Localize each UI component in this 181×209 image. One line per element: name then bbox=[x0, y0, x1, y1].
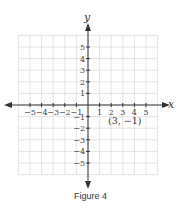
x-tick-label: −5 bbox=[24, 108, 36, 117]
y-tick-label: 2 bbox=[80, 78, 85, 87]
y-tick-label: 1 bbox=[80, 89, 85, 98]
x-tick-label: −3 bbox=[47, 108, 59, 117]
x-tick-label: 5 bbox=[143, 108, 148, 117]
y-tick-label: −5 bbox=[73, 159, 85, 168]
y-tick-label: −3 bbox=[73, 136, 85, 145]
y-tick-label: −1 bbox=[73, 113, 85, 122]
y-tick-label: 5 bbox=[80, 43, 85, 52]
x-tick-label: −2 bbox=[59, 108, 71, 117]
y-axis-down-arrow-icon bbox=[85, 181, 91, 189]
y-tick-label: 3 bbox=[80, 66, 85, 75]
axes bbox=[4, 23, 170, 189]
point-label: (3, −1) bbox=[108, 115, 142, 126]
figure-caption: Figure 4 bbox=[0, 191, 181, 201]
y-axis-label: y bbox=[83, 11, 91, 24]
y-axis-up-arrow-icon bbox=[85, 23, 91, 31]
y-tick-label: −2 bbox=[73, 124, 85, 133]
coordinate-plane: −5−4−3−2−11234554321−1−2−3−4−5 x y (3, −… bbox=[0, 0, 181, 209]
x-tick-label: 1 bbox=[97, 108, 102, 117]
x-axis-left-arrow-icon bbox=[4, 102, 12, 108]
y-tick-label: −4 bbox=[73, 147, 85, 156]
x-axis-label: x bbox=[168, 98, 175, 111]
x-tick-label: −4 bbox=[36, 108, 48, 117]
y-tick-label: 4 bbox=[80, 55, 85, 64]
